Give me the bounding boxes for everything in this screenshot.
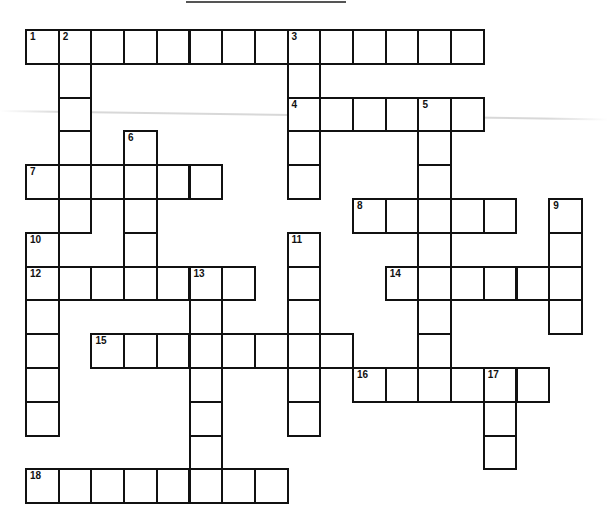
- crossword-cell[interactable]: [516, 367, 551, 403]
- crossword-cell[interactable]: 8: [352, 198, 387, 234]
- crossword-cell[interactable]: [90, 29, 125, 65]
- crossword-cell[interactable]: [90, 468, 125, 504]
- crossword-cell[interactable]: [156, 164, 191, 200]
- crossword-cell[interactable]: [548, 266, 583, 302]
- crossword-cell[interactable]: [287, 333, 322, 369]
- crossword-cell[interactable]: [385, 367, 420, 403]
- crossword-cell[interactable]: 1: [25, 29, 60, 65]
- crossword-cell[interactable]: 12: [25, 266, 60, 302]
- crossword-cell[interactable]: 17: [483, 367, 518, 403]
- crossword-cell[interactable]: [25, 333, 60, 369]
- crossword-cell[interactable]: [189, 401, 224, 437]
- crossword-cell[interactable]: [385, 198, 420, 234]
- crossword-cell[interactable]: [254, 333, 289, 369]
- crossword-cell[interactable]: [123, 164, 158, 200]
- crossword-cell[interactable]: [254, 468, 289, 504]
- crossword-cell[interactable]: [58, 97, 93, 133]
- crossword-cell[interactable]: 10: [25, 232, 60, 268]
- crossword-cell[interactable]: [189, 333, 224, 369]
- crossword-cell[interactable]: [189, 164, 224, 200]
- crossword-cell[interactable]: [189, 29, 224, 65]
- crossword-cell[interactable]: [287, 63, 322, 99]
- crossword-cell[interactable]: 2: [58, 29, 93, 65]
- crossword-cell[interactable]: [287, 367, 322, 403]
- crossword-cell[interactable]: [319, 29, 354, 65]
- crossword-cell[interactable]: [58, 130, 93, 166]
- crossword-cell[interactable]: [25, 299, 60, 335]
- crossword-cell[interactable]: 9: [548, 198, 583, 234]
- crossword-cell[interactable]: [189, 367, 224, 403]
- crossword-cell[interactable]: [352, 97, 387, 133]
- crossword-cell[interactable]: [58, 266, 93, 302]
- crossword-cell[interactable]: [123, 333, 158, 369]
- crossword-cell[interactable]: [287, 401, 322, 437]
- crossword-cell[interactable]: [287, 299, 322, 335]
- crossword-cell[interactable]: [189, 468, 224, 504]
- crossword-cell[interactable]: [352, 29, 387, 65]
- crossword-cell[interactable]: [58, 468, 93, 504]
- crossword-cell[interactable]: [221, 333, 256, 369]
- crossword-cell[interactable]: [483, 401, 518, 437]
- crossword-cell[interactable]: [516, 266, 551, 302]
- crossword-cell[interactable]: 5: [417, 97, 452, 133]
- crossword-cell[interactable]: [483, 435, 518, 471]
- crossword-cell[interactable]: [156, 468, 191, 504]
- crossword-cell[interactable]: [319, 333, 354, 369]
- crossword-cell[interactable]: [548, 299, 583, 335]
- crossword-cell[interactable]: [417, 367, 452, 403]
- crossword-cell[interactable]: 18: [25, 468, 60, 504]
- crossword-cell[interactable]: [417, 164, 452, 200]
- crossword-cell[interactable]: [221, 29, 256, 65]
- crossword-cell[interactable]: 3: [287, 29, 322, 65]
- crossword-cell[interactable]: [450, 97, 485, 133]
- crossword-cell[interactable]: [450, 266, 485, 302]
- crossword-cell[interactable]: [90, 266, 125, 302]
- crossword-cell[interactable]: 15: [90, 333, 125, 369]
- crossword-cell[interactable]: [123, 29, 158, 65]
- crossword-cell[interactable]: [417, 130, 452, 166]
- crossword-cell[interactable]: [189, 299, 224, 335]
- crossword-cell[interactable]: [548, 232, 583, 268]
- crossword-cell[interactable]: [221, 468, 256, 504]
- crossword-cell[interactable]: [254, 29, 289, 65]
- crossword-cell[interactable]: [123, 198, 158, 234]
- crossword-cell[interactable]: 13: [189, 266, 224, 302]
- crossword-cell[interactable]: 7: [25, 164, 60, 200]
- crossword-cell[interactable]: [123, 232, 158, 268]
- crossword-cell[interactable]: [450, 198, 485, 234]
- crossword-cell[interactable]: 11: [287, 232, 322, 268]
- crossword-cell[interactable]: [417, 266, 452, 302]
- crossword-cell[interactable]: [287, 130, 322, 166]
- crossword-cell[interactable]: 14: [385, 266, 420, 302]
- crossword-cell[interactable]: [319, 97, 354, 133]
- crossword-cell[interactable]: [58, 164, 93, 200]
- crossword-cell[interactable]: [189, 435, 224, 471]
- crossword-cell[interactable]: [450, 29, 485, 65]
- crossword-cell[interactable]: [385, 29, 420, 65]
- crossword-cell[interactable]: [25, 367, 60, 403]
- crossword-cell[interactable]: 16: [352, 367, 387, 403]
- crossword-cell[interactable]: [90, 164, 125, 200]
- crossword-cell[interactable]: [25, 401, 60, 437]
- crossword-cell[interactable]: [417, 198, 452, 234]
- crossword-cell[interactable]: [221, 266, 256, 302]
- crossword-cell[interactable]: [123, 266, 158, 302]
- crossword-cell[interactable]: [156, 333, 191, 369]
- crossword-cell[interactable]: [287, 164, 322, 200]
- crossword-cell[interactable]: [417, 232, 452, 268]
- crossword-cell[interactable]: [156, 29, 191, 65]
- crossword-cell[interactable]: [58, 198, 93, 234]
- crossword-cell[interactable]: [483, 266, 518, 302]
- crossword-cell[interactable]: [58, 63, 93, 99]
- crossword-cell[interactable]: 6: [123, 130, 158, 166]
- crossword-cell[interactable]: [417, 29, 452, 65]
- crossword-cell[interactable]: [417, 333, 452, 369]
- crossword-cell[interactable]: [450, 367, 485, 403]
- crossword-cell[interactable]: [385, 97, 420, 133]
- crossword-cell[interactable]: [483, 198, 518, 234]
- crossword-cell[interactable]: 4: [287, 97, 322, 133]
- crossword-cell[interactable]: [123, 468, 158, 504]
- crossword-cell[interactable]: [417, 299, 452, 335]
- crossword-cell[interactable]: [156, 266, 191, 302]
- crossword-cell[interactable]: [287, 266, 322, 302]
